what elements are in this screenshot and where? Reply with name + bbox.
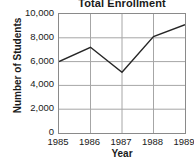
vertical-gridlines [91,14,154,133]
x-axis-tick-label: 1989 [167,136,194,147]
y-axis-tick-label: 6,000 [10,55,54,66]
plot-canvas [59,14,185,133]
x-axis-tick-label: 1987 [104,136,138,147]
plot-area [58,13,186,134]
y-axis-tick-label: 2,000 [10,102,54,113]
y-axis-tick-label: 8,000 [10,31,54,42]
chart-title: Total Enrollment [58,0,186,9]
x-axis-tick-label: 1985 [41,136,75,147]
y-axis-tick-label: 10,000 [10,7,54,18]
x-axis-tick-label: 1988 [136,136,170,147]
y-axis-tick-label: 4,000 [10,78,54,89]
chart-figure: Total Enrollment Number of Students 02,0… [0,0,194,164]
x-axis-title: Year [58,148,186,159]
x-axis-tick-label: 1986 [73,136,107,147]
